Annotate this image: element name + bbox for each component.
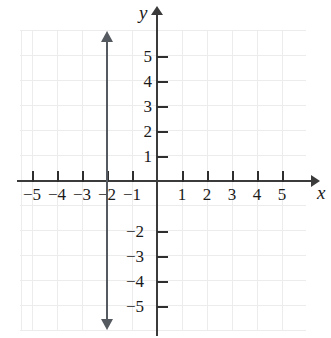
y-axis-tick-label: −2 <box>118 223 144 240</box>
y-axis-tick <box>157 156 168 158</box>
y-axis-tick-label: −4 <box>118 273 144 290</box>
x-axis-tick <box>132 171 134 182</box>
y-axis-tick <box>157 131 168 133</box>
x-axis-tick-label: 5 <box>271 186 293 203</box>
x-axis-tick <box>32 171 34 182</box>
x-axis-tick <box>257 171 259 182</box>
x-axis-tick <box>82 171 84 182</box>
x-axis-tick <box>232 171 234 182</box>
y-axis-tick-label: 4 <box>126 73 152 90</box>
y-axis-tick-label: 2 <box>126 123 152 140</box>
plot-line-arrow-down-icon <box>101 319 113 330</box>
y-axis-tick-label: −5 <box>118 298 144 315</box>
x-axis-tick-label: 2 <box>196 186 218 203</box>
y-axis-tick <box>157 56 168 58</box>
x-axis-tick-label: −5 <box>21 186 43 203</box>
y-axis-line <box>156 10 158 336</box>
y-axis-tick <box>157 231 168 233</box>
x-axis-line <box>17 180 314 182</box>
plotted-vertical-line <box>106 40 108 322</box>
x-axis-tick-label: 3 <box>221 186 243 203</box>
x-axis-tick-label: −3 <box>71 186 93 203</box>
x-axis-tick <box>182 171 184 182</box>
x-axis-tick-label: 1 <box>171 186 193 203</box>
x-axis-tick-label: −1 <box>121 186 143 203</box>
y-axis-tick-label: −3 <box>118 248 144 265</box>
coordinate-plane-figure: −5−4−3−2−112345 54321−2−3−4−5 x y <box>0 0 331 338</box>
x-axis-tick-label: 4 <box>246 186 268 203</box>
x-axis-tick <box>282 171 284 182</box>
y-axis-tick <box>157 256 168 258</box>
y-axis-tick-label: 5 <box>126 48 152 65</box>
plot-line-arrow-up-icon <box>101 31 113 42</box>
y-axis-tick-label: 3 <box>126 98 152 115</box>
y-axis-tick <box>157 106 168 108</box>
y-axis-tick <box>157 81 168 83</box>
x-axis-label: x <box>317 182 325 204</box>
x-axis-tick-label: −4 <box>46 186 68 203</box>
x-axis-tick <box>207 171 209 182</box>
y-axis-tick <box>157 306 168 308</box>
y-axis-label: y <box>139 2 147 24</box>
x-axis-tick <box>57 171 59 182</box>
y-axis-tick-label: 1 <box>126 148 152 165</box>
y-axis-arrow-icon <box>151 6 163 15</box>
y-axis-tick <box>157 281 168 283</box>
